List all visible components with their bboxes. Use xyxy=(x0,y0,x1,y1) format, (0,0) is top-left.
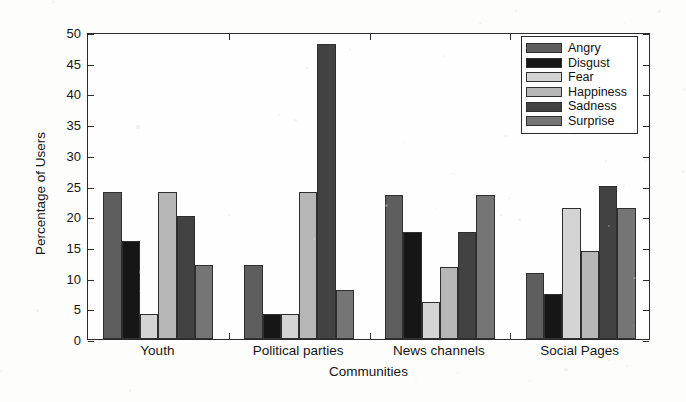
scan-speckle xyxy=(497,361,498,362)
bar-disgust-political-parties xyxy=(263,314,281,339)
legend-item-happiness: Happiness xyxy=(526,85,632,100)
scan-speckle xyxy=(342,13,343,14)
scan-speckle xyxy=(479,22,482,25)
legend-label: Disgust xyxy=(568,57,610,70)
scan-speckle xyxy=(349,49,351,51)
scan-speckle xyxy=(529,380,531,382)
bar-surprise-news-channels xyxy=(476,195,494,339)
legend-item-sadness: Sadness xyxy=(526,99,632,114)
y-tick-label: 45 xyxy=(47,57,81,70)
scan-speckle xyxy=(606,346,609,349)
bar-happiness-youth xyxy=(158,192,176,339)
scan-speckle xyxy=(452,173,453,174)
scan-speckle xyxy=(52,1,55,4)
y-tick-label: 5 xyxy=(47,303,81,316)
scan-speckle xyxy=(626,365,628,367)
legend-label: Angry xyxy=(568,42,601,55)
y-tick-label: 35 xyxy=(47,119,81,132)
scan-speckle xyxy=(434,351,437,354)
scan-speckle xyxy=(522,111,523,112)
bar-angry-youth xyxy=(103,192,121,339)
x-axis-title: Communities xyxy=(87,364,650,379)
bar-sadness-political-parties xyxy=(317,44,335,339)
bar-angry-social-pages xyxy=(526,273,544,339)
y-tick-label: 20 xyxy=(47,211,81,224)
scan-speckle xyxy=(515,10,517,12)
bar-angry-news-channels xyxy=(385,195,403,339)
scan-speckle xyxy=(554,392,555,393)
scan-speckle xyxy=(415,380,416,381)
y-tick-label: 30 xyxy=(47,149,81,162)
bar-angry-political-parties xyxy=(244,265,262,339)
legend-swatch-happiness xyxy=(526,87,562,97)
legend-label: Surprise xyxy=(568,115,615,128)
bar-disgust-social-pages xyxy=(544,294,562,339)
bar-surprise-youth xyxy=(195,265,213,339)
scan-speckle xyxy=(53,164,54,165)
y-tick-label: 10 xyxy=(47,272,81,285)
legend-swatch-angry xyxy=(526,43,562,53)
y-tick-mark xyxy=(88,341,94,342)
bar-happiness-news-channels xyxy=(440,267,458,339)
bar-happiness-political-parties xyxy=(299,192,317,339)
scan-speckle xyxy=(36,309,39,312)
scan-speckle xyxy=(314,238,315,239)
scan-speckle xyxy=(437,371,438,372)
legend-item-surprise: Surprise xyxy=(526,114,632,129)
legend: AngryDisgustFearHappinessSadnessSurprise xyxy=(521,36,638,134)
bar-fear-news-channels xyxy=(422,302,440,339)
scan-speckle xyxy=(129,389,131,391)
x-tick-label: News channels xyxy=(393,344,485,358)
scan-speckle xyxy=(605,160,607,162)
scan-speckle xyxy=(136,125,139,128)
scan-speckle xyxy=(456,372,458,374)
y-tick-mark-right xyxy=(643,341,649,342)
scan-speckle xyxy=(518,218,521,221)
bar-fear-youth xyxy=(140,314,158,339)
scan-speckle xyxy=(564,368,567,371)
bar-sadness-youth xyxy=(177,216,195,339)
scan-speckle xyxy=(624,22,626,24)
y-tick-label: 40 xyxy=(47,88,81,101)
x-tick-label: Political parties xyxy=(253,344,344,358)
bar-fear-political-parties xyxy=(281,314,299,339)
scan-speckle xyxy=(633,325,634,326)
y-tick-label: 25 xyxy=(47,180,81,193)
scan-speckle xyxy=(658,10,661,13)
scan-speckle xyxy=(574,134,575,135)
legend-item-angry: Angry xyxy=(526,41,632,56)
legend-label: Happiness xyxy=(568,86,627,99)
bar-surprise-social-pages xyxy=(617,208,635,339)
x-axis-tick-labels: YouthPolitical partiesNews channelsSocia… xyxy=(87,344,650,364)
scan-speckle xyxy=(0,370,2,372)
scan-speckle xyxy=(90,277,93,280)
bar-disgust-youth xyxy=(122,241,140,339)
scan-speckle xyxy=(443,54,445,56)
bar-disgust-news-channels xyxy=(403,232,421,339)
scan-speckle xyxy=(385,204,388,207)
legend-item-fear: Fear xyxy=(526,70,632,85)
legend-label: Fear xyxy=(568,71,594,84)
legend-swatch-sadness xyxy=(526,102,562,112)
legend-label: Sadness xyxy=(568,100,617,113)
bar-happiness-social-pages xyxy=(581,251,599,339)
legend-item-disgust: Disgust xyxy=(526,56,632,71)
bar-surprise-political-parties xyxy=(336,290,354,339)
scan-speckle xyxy=(228,214,231,217)
legend-swatch-disgust xyxy=(526,58,562,68)
x-tick-label: Youth xyxy=(140,344,174,358)
y-tick-label: 0 xyxy=(47,334,81,347)
bar-sadness-news-channels xyxy=(458,232,476,339)
legend-swatch-fear xyxy=(526,72,562,82)
legend-swatch-surprise xyxy=(526,116,562,126)
y-tick-label: 50 xyxy=(47,27,81,40)
bar-fear-social-pages xyxy=(562,208,580,339)
bar-sadness-social-pages xyxy=(599,186,617,340)
y-tick-label: 15 xyxy=(47,241,81,254)
scan-speckle xyxy=(682,170,685,173)
bar-chart-figure: Percentage of Users 05101520253035404550… xyxy=(0,0,686,402)
